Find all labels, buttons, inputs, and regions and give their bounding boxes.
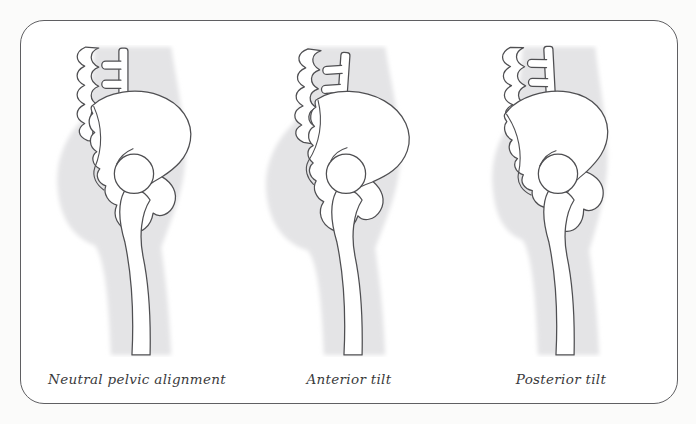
figure-frame: Neutral pelvic alignment Anterior tilt	[20, 20, 678, 404]
femoral-head	[326, 154, 365, 193]
caption-neutral: Neutral pelvic alignment	[48, 371, 226, 387]
vertebra-tooth	[102, 80, 121, 88]
vertebra-tooth	[323, 65, 343, 74]
vertebra-tooth	[102, 61, 121, 69]
caption-anterior: Anterior tilt	[307, 371, 392, 387]
panel-neutral: Neutral pelvic alignment	[32, 45, 242, 403]
posterior-tilt-illustration	[467, 45, 655, 357]
femoral-head	[538, 154, 577, 193]
anterior-tilt-illustration	[255, 45, 443, 357]
caption-posterior: Posterior tilt	[516, 371, 606, 387]
neutral-pelvis-illustration	[43, 45, 231, 357]
panel-posterior: Posterior tilt	[456, 45, 666, 403]
vertebra-tooth	[527, 59, 546, 67]
panel-anterior: Anterior tilt	[244, 45, 454, 403]
vertebra-tooth	[528, 78, 547, 86]
femoral-head	[114, 154, 153, 193]
